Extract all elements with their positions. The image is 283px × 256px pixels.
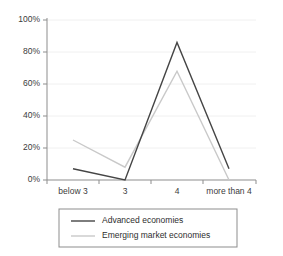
x-tick-label-more-than-4: more than 4 bbox=[206, 186, 252, 196]
series-line-advanced-economies bbox=[73, 42, 229, 180]
y-tick-label-80: 80% bbox=[23, 46, 40, 56]
x-tick-label-4: 4 bbox=[175, 186, 180, 196]
gridlines bbox=[47, 20, 256, 148]
line-chart: 100% 80% 60% 40% 20% 0% below 3 3 4 more… bbox=[0, 0, 283, 256]
legend-label-advanced-economies: Advanced economies bbox=[102, 215, 183, 225]
y-axis: 100% 80% 60% 40% 20% 0% bbox=[18, 14, 47, 184]
chart-canvas: 100% 80% 60% 40% 20% 0% below 3 3 4 more… bbox=[0, 0, 283, 256]
legend-label-emerging-market-economies: Emerging market economies bbox=[102, 230, 210, 240]
y-tick-label-40: 40% bbox=[23, 110, 40, 120]
series-group bbox=[73, 42, 229, 180]
y-tick-label-100: 100% bbox=[18, 14, 40, 24]
y-tick-label-20: 20% bbox=[23, 142, 40, 152]
y-tick-label-60: 60% bbox=[23, 78, 40, 88]
series-line-emerging-market-economies bbox=[73, 71, 229, 180]
x-tick-label-below-3: below 3 bbox=[58, 186, 88, 196]
x-tick-label-3: 3 bbox=[123, 186, 128, 196]
y-tick-label-0: 0% bbox=[28, 174, 41, 184]
x-axis: below 3 3 4 more than 4 bbox=[47, 180, 256, 196]
legend: Advanced economies Emerging market econo… bbox=[59, 209, 237, 247]
